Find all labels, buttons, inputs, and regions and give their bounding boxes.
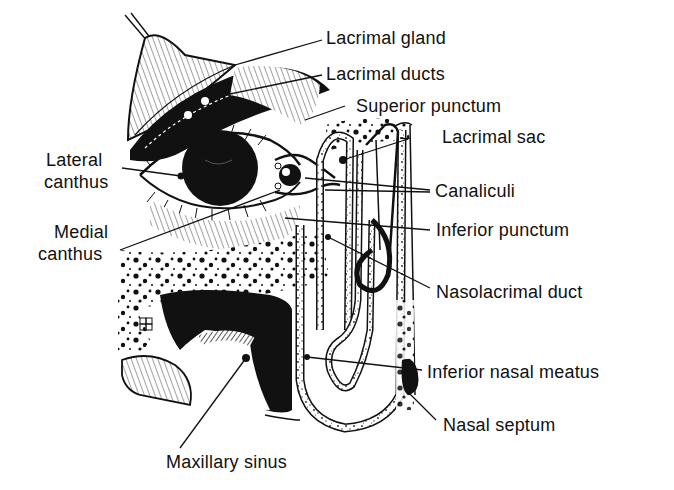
- label-inferior-punctum: Inferior punctum: [436, 220, 569, 240]
- iris: [182, 130, 258, 206]
- label-superior-punctum: Superior punctum: [356, 96, 501, 116]
- label-lacrimal-sac: Lacrimal sac: [442, 127, 545, 147]
- label-canaliculi: Canaliculi: [435, 181, 515, 201]
- label-maxillary-sinus: Maxillary sinus: [166, 452, 287, 472]
- label-nasolacrimal-duct: Nasolacrimal duct: [436, 282, 582, 302]
- leader-nasolacrimal-duct: [328, 237, 430, 288]
- medial-corner: [275, 155, 340, 194]
- label-medial-canthus-line2: canthus: [38, 244, 102, 264]
- label-lacrimal-ducts: Lacrimal ducts: [326, 64, 445, 84]
- nasolacrimal-system: [300, 123, 418, 428]
- label-inferior-nasal-meatus: Inferior nasal meatus: [427, 362, 599, 382]
- label-lateral-canthus-line2: canthus: [44, 172, 108, 192]
- upper-lip-region: [122, 356, 191, 405]
- label-lacrimal-gland: Lacrimal gland: [326, 28, 446, 48]
- leader-lacrimal-gland: [235, 40, 322, 65]
- label-medial-canthus-line1: Medial: [54, 222, 108, 242]
- label-lateral-canthus-line1: Lateral: [46, 150, 102, 170]
- leader-lateral-canthus: [122, 168, 181, 176]
- label-nasal-septum: Nasal septum: [443, 415, 555, 435]
- lacrimal-apparatus-diagram: Lacrimal gland Lacrimal ducts Superior p…: [0, 0, 674, 490]
